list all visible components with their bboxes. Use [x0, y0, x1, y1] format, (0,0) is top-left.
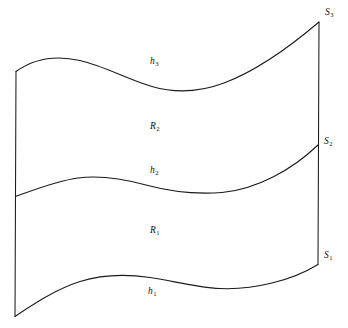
- boundary-curve-h2: [16, 145, 319, 197]
- section-label-s2-subscript: 2: [329, 140, 332, 147]
- region-label-r1: R1: [150, 226, 159, 236]
- section-label-s1: S1: [324, 251, 332, 261]
- left-side-edge: [15, 72, 16, 317]
- figure-container: h3 R2 h2 R1 h1 S3 S2 S1: [0, 0, 348, 328]
- region-label-r2-subscript: 2: [156, 125, 159, 132]
- boundary-curve-h3: [16, 22, 319, 91]
- section-label-s1-subscript: 1: [329, 254, 332, 261]
- section-label-s3-subscript: 3: [330, 11, 333, 18]
- surface-diagram-canvas: [0, 0, 348, 328]
- right-side-edge: [318, 22, 319, 265]
- curve-label-h3-subscript: 3: [155, 60, 158, 67]
- curve-label-h1-subscript: 1: [153, 290, 156, 297]
- curve-label-h2: h2: [150, 166, 158, 176]
- section-label-s3: S3: [325, 8, 333, 18]
- region-label-r2: R2: [150, 122, 159, 132]
- section-label-s2: S2: [324, 137, 332, 147]
- region-label-r1-subscript: 1: [156, 229, 159, 236]
- curve-label-h3: h3: [150, 57, 158, 67]
- boundary-curve-h1: [15, 265, 318, 317]
- curve-label-h2-subscript: 2: [155, 169, 158, 176]
- curve-label-h1: h1: [148, 287, 156, 297]
